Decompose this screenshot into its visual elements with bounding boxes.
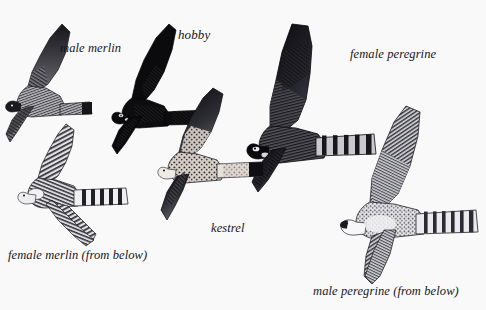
bird-kestrel — [163, 86, 279, 222]
falcon-illustration-plate: male merlin — [0, 0, 486, 310]
caption-hobby: hobby — [178, 28, 210, 41]
caption-male-merlin: male merlin — [60, 42, 121, 55]
caption-female-merlin: female merlin (from below) — [8, 249, 147, 262]
bird-hobby — [112, 24, 218, 154]
caption-kestrel: kestrel — [211, 222, 245, 235]
bird-female-merlin — [22, 122, 142, 248]
bird-male-peregrine — [340, 104, 482, 284]
caption-female-peregrine: female peregrine — [350, 48, 436, 61]
caption-male-peregrine: male peregrine (from below) — [313, 285, 459, 298]
bird-male-merlin — [4, 22, 96, 134]
